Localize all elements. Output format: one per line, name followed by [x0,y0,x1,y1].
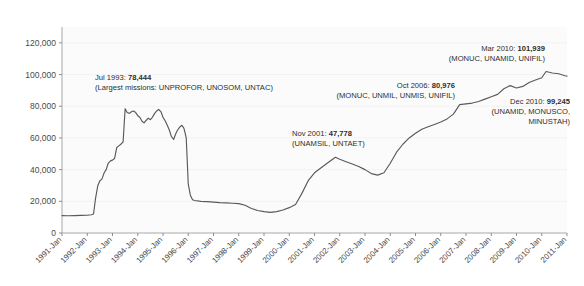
x-tick-label-1998-Jan: 1998-Jan [210,235,240,265]
annotation-jul-1993-missions: (Largest missions: UNPROFOR, UNOSOM, UNT… [95,83,273,92]
annotation-mar-2010-value: 101,939 [518,44,545,53]
x-tick-label-2004-Jan: 2004-Jan [362,235,392,265]
x-tick-label-2003-Jan: 2003-Jan [336,235,366,265]
y-tick-label-80000: 80,000 [30,101,56,111]
y-tick-label-20000: 20,000 [30,196,56,206]
annotation-dec-2010-value: 99,245 [547,97,571,106]
annotation-oct-2006-date: Oct 2006: [397,81,432,90]
annotation-dec-2010-label: Dec 2010: 99,245 [510,97,571,106]
annotation-mar-2010-date: Mar 2010: [481,44,517,53]
annotation-oct-2006-label: Oct 2006: 80,976 [397,81,455,90]
y-tick-label-100000: 100,000 [25,70,56,80]
line-chart: 020,00040,00060,00080,000100,000120,000 … [0,0,584,286]
x-tick-label-2006-Jan: 2006-Jan [412,235,442,265]
x-tick-label-2008-Jan: 2008-Jan [463,235,493,265]
x-tick-label-2009-Jan: 2009-Jan [488,235,518,265]
x-tick-label-2010-Jan: 2010-Jan [513,235,543,265]
x-tick-label-1994-Jan: 1994-Jan [109,235,139,265]
annotation-dec-2010-missions: (UNAMID, MONUSCO, [492,107,570,116]
annotation-nov-2001-missions: (UNAMSIL, UNTAET) [292,139,365,148]
y-tick-label-40000: 40,000 [30,165,56,175]
x-tick-label-1996-Jan: 1996-Jan [160,235,190,265]
y-tick-label-60000: 60,000 [30,133,56,143]
x-tick-label-2000-Jan: 2000-Jan [261,235,291,265]
annotation-mar-2010-missions: (MONUC, UNAMID, UNIFIL) [449,54,546,63]
annotation-jul-1993-label: Jul 1993: 78,444 [95,73,152,82]
annotation-dec-2010-date: Dec 2010: [510,97,547,106]
annotation-dec-2010-missions-cont: MINUSTAH) [528,117,570,126]
x-tick-label-1995-Jan: 1995-Jan [134,235,164,265]
x-tick-label-2011-Jan: 2011-Jan [539,235,569,265]
chart-container: 020,00040,00060,00080,000100,000120,000 … [0,0,584,286]
x-tick-label-1997-Jan: 1997-Jan [185,235,215,265]
annotation-oct-2006-value: 80,976 [432,81,455,90]
y-tick-label-120000: 120,000 [25,38,56,48]
annotation-jul-1993-value: 78,444 [128,73,152,82]
annotation-nov-2001-date: Nov 2001: [292,129,329,138]
x-tick-label-1991-Jan: 1991-Jan [33,235,63,265]
annotation-jul-1993-date: Jul 1993: [95,73,128,82]
x-tick-label-2001-Jan: 2001-Jan [286,235,316,265]
x-tick-label-2005-Jan: 2005-Jan [387,235,417,265]
y-axis-ticks-group: 020,00040,00060,00080,000100,000120,000 [25,38,62,238]
x-tick-label-1999-Jan: 1999-Jan [235,235,265,265]
x-tick-label-1992-Jan: 1992-Jan [59,235,89,265]
annotation-nov-2001-label: Nov 2001: 47,778 [292,129,352,138]
x-axis-ticks-group: 1991-Jan1992-Jan1993-Jan1994-Jan1995-Jan… [33,233,568,265]
x-tick-label-2007-Jan: 2007-Jan [437,235,467,265]
x-tick-label-2002-Jan: 2002-Jan [311,235,341,265]
annotation-oct-2006-missions: (MONUC, UNMIL, UNMIS, UNIFIL) [336,91,455,100]
annotation-mar-2010-label: Mar 2010: 101,939 [481,44,545,53]
x-tick-label-1993-Jan: 1993-Jan [84,235,114,265]
annotation-nov-2001-value: 47,778 [329,129,352,138]
